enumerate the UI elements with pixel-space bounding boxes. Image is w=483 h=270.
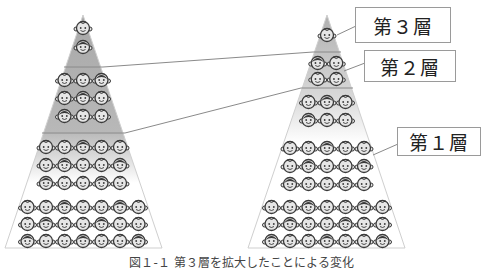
label-layer3: 第３層 bbox=[355, 7, 451, 43]
label-layer1: 第１層 bbox=[397, 127, 481, 156]
label-layer2: 第２層 bbox=[364, 50, 456, 82]
pointer-layer3 bbox=[337, 26, 356, 35]
pointer-layer1 bbox=[373, 144, 398, 155]
connector-layer3-boundary bbox=[103, 52, 313, 67]
connector-layer2-boundary bbox=[125, 88, 301, 133]
pointer-layer2 bbox=[344, 63, 365, 71]
figure-caption: 図１-１ 第３層を拡大したことによる変化 bbox=[0, 253, 483, 270]
